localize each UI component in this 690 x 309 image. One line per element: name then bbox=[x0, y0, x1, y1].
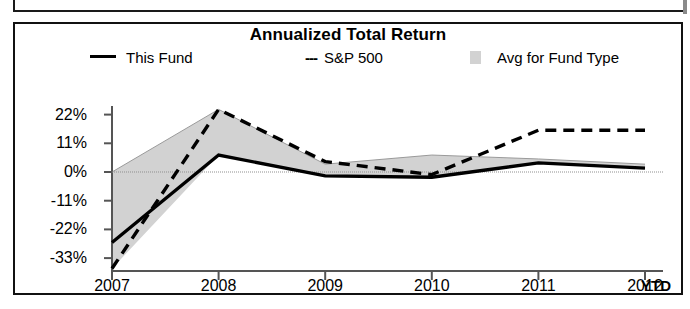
y-axis-tick-label: -22% bbox=[27, 221, 87, 237]
y-axis-tick-label: 0% bbox=[27, 164, 87, 180]
x-axis-tick-label: 2011 bbox=[503, 277, 573, 295]
x-axis-tick-labels: YTD 200720082009201020112012 bbox=[15, 277, 685, 303]
y-axis-tick-labels: 22%11%0%-11%-22%-33% bbox=[27, 24, 87, 297]
x-axis-tick-label: 2008 bbox=[184, 277, 254, 295]
y-axis-tick-label: -33% bbox=[27, 250, 87, 266]
chart-plot-area bbox=[15, 24, 685, 297]
adjacent-panel-fragment bbox=[13, 0, 685, 12]
page-edge-shadow bbox=[683, 0, 687, 14]
y-axis-tick-label: -11% bbox=[27, 193, 87, 209]
x-axis-tick-label: 2012 bbox=[610, 277, 680, 295]
y-axis-tick-label: 11% bbox=[27, 135, 87, 151]
y-axis-tick-label: 22% bbox=[27, 107, 87, 123]
annualized-total-return-chart-panel: Annualized Total Return This Fund --- S&… bbox=[13, 22, 683, 295]
avg-fund-type-band bbox=[112, 109, 645, 268]
x-axis-tick-label: 2010 bbox=[397, 277, 467, 295]
x-axis-tick-label: 2009 bbox=[290, 277, 360, 295]
x-axis-tick-label: 2007 bbox=[77, 277, 147, 295]
